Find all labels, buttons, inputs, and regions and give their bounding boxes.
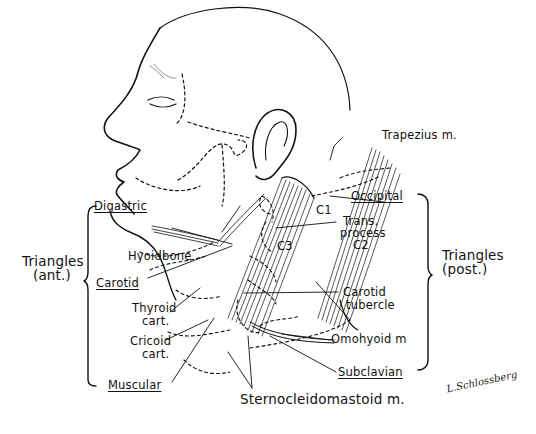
cranium [160, 7, 350, 110]
label-subclavian-triangle: Subclavian [338, 366, 403, 378]
sternocleidomastoid-muscle [228, 177, 314, 336]
label-cricoid-cart-2: cart. [142, 348, 169, 360]
eye [148, 97, 176, 107]
label-carotid-tubercle-2: tubercle [346, 299, 395, 311]
triangles-ant-line-2: (ant.) [22, 268, 82, 282]
label-c1: C1 [316, 204, 332, 216]
mandible-dashed [136, 74, 250, 206]
label-c3: C3 [277, 240, 293, 252]
label-thyroid-cart-1: Thyroid [132, 302, 177, 314]
label-triangles-anterior: Triangles (ant.) [22, 254, 82, 282]
label-sternocleidomastoid: Sternocleidomastoid m. [240, 392, 405, 406]
label-thyroid-cart-2: cart. [142, 315, 169, 327]
anterior-bracket [84, 206, 96, 386]
triangles-post-line-1: Triangles [442, 248, 504, 262]
triangles-post-line-2: (post.) [442, 262, 504, 276]
label-muscular-triangle: Muscular [108, 379, 161, 391]
anatomical-illustration [0, 0, 536, 434]
label-trapezius: Trapezius m. [382, 129, 457, 141]
label-digastric-triangle: Digastric [94, 200, 147, 212]
label-hyoid-bone: Hyoidbone [128, 250, 191, 262]
leader-lines [148, 138, 384, 388]
neck-triangles-diagram: Trapezius m. Occipital C1 Trans. process… [0, 0, 536, 434]
label-cricoid-cart-1: Cricoid [130, 335, 171, 347]
label-triangles-posterior: Triangles (post.) [442, 248, 504, 276]
label-trans-process-3: C2 [353, 239, 369, 251]
posterior-bracket [418, 194, 432, 370]
label-carotid-tubercle-1: Carotid [343, 286, 386, 298]
triangles-ant-line-1: Triangles [22, 254, 82, 268]
ear [253, 110, 296, 180]
label-omohyoid: Omohyoid m [331, 333, 407, 345]
label-carotid-triangle: Carotid [96, 277, 139, 289]
label-occipital-triangle: Occipital [351, 190, 403, 202]
